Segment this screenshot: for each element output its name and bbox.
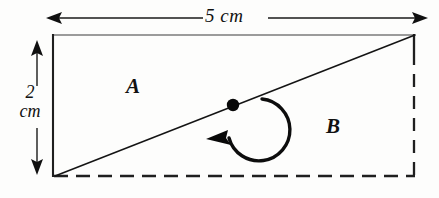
- height-dimension-unit: cm: [8, 102, 52, 121]
- region-label-b: B: [326, 114, 340, 139]
- geometry-diagram: 5 cm 2 cm A B: [0, 0, 439, 198]
- filled-dot-icon: [227, 99, 239, 111]
- height-dimension-number: 2: [8, 83, 52, 102]
- figure-svg: [0, 0, 439, 198]
- region-label-a: A: [126, 74, 140, 99]
- diagram-background: [0, 0, 439, 198]
- height-dimension-label: 2 cm: [8, 83, 52, 121]
- width-dimension-label: 5 cm: [205, 5, 243, 27]
